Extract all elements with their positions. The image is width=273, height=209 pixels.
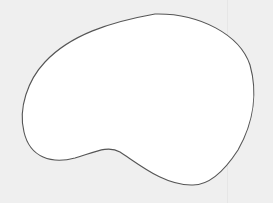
blob-outline (22, 14, 254, 185)
blob-shape (0, 0, 273, 209)
canvas (0, 0, 273, 209)
